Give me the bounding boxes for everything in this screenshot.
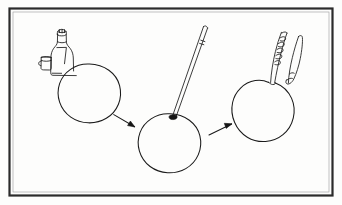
figure-canvas: Line drawing: bottle and cup beside a sp… [0,0,342,205]
hand-drawn-illustration [0,0,342,205]
paper-background [0,0,342,205]
insertion-point [169,115,177,120]
